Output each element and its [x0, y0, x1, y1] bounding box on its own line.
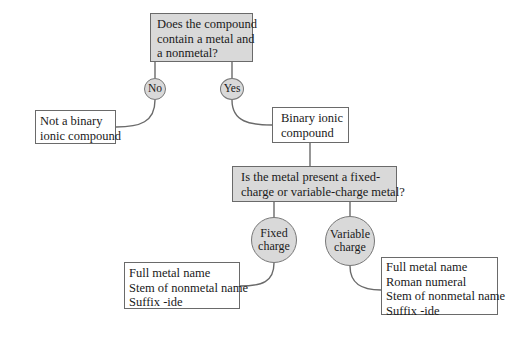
variable-line-1: Variable: [330, 228, 370, 242]
branch-yes-label: Yes: [224, 82, 241, 96]
question1-line-2: contain a metal and: [157, 32, 246, 47]
branch-yes-node: Yes: [220, 78, 244, 100]
fixed-result-line-1: Full metal name: [129, 266, 235, 281]
decision-contains-metal-nonmetal: Does the compound contain a metal and a …: [150, 13, 253, 62]
variable-result-line-4: Suffix -ide: [386, 304, 493, 319]
branch-fixed-charge-node: Fixed charge: [251, 217, 297, 263]
fixed-line-1: Fixed: [258, 227, 290, 241]
variable-result-line-2: Roman numeral: [386, 275, 493, 290]
fixed-line-2: charge: [258, 240, 290, 254]
decision-fixed-or-variable-charge: Is the metal present a fixed- charge or …: [232, 166, 397, 202]
result-not-binary-ionic: Not a binary ionic compound: [35, 110, 116, 144]
not-binary-line-2: ionic compound: [40, 129, 111, 144]
result-binary-ionic: Binary ionic compound: [272, 107, 349, 143]
variable-line-2: charge: [330, 241, 370, 255]
result-fixed-charge-naming: Full metal name Stem of nonmetal name Su…: [124, 262, 240, 309]
variable-result-line-3: Stem of nonmetal name: [386, 289, 493, 304]
question1-line-3: a nonmetal?: [157, 46, 246, 61]
question2-line-2: charge or variable-charge metal?: [241, 185, 388, 200]
question1-line-1: Does the compound: [157, 17, 246, 32]
binary-ionic-line-2: compound: [281, 126, 340, 141]
variable-result-line-1: Full metal name: [386, 260, 493, 275]
question2-line-1: Is the metal present a fixed-: [241, 170, 388, 185]
branch-variable-charge-node: Variable charge: [325, 216, 375, 266]
result-variable-charge-naming: Full metal name Roman numeral Stem of no…: [381, 257, 498, 315]
branch-no-label: No: [148, 82, 162, 96]
branch-no-node: No: [144, 78, 166, 100]
fixed-result-line-3: Suffix -ide: [129, 295, 235, 310]
binary-ionic-line-1: Binary ionic: [281, 111, 340, 126]
not-binary-line-1: Not a binary: [40, 114, 111, 129]
fixed-result-line-2: Stem of nonmetal name: [129, 281, 235, 296]
